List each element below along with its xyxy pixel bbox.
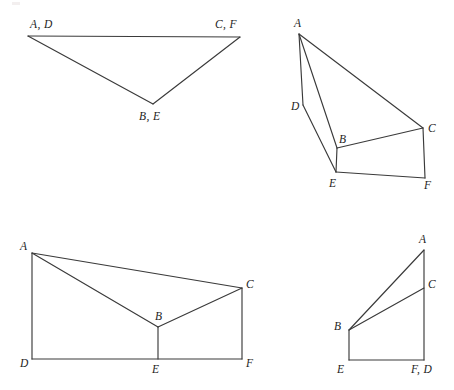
- edge-A-B: [299, 34, 337, 148]
- vertex-label-F: F: [245, 357, 254, 369]
- vertex-label-BE: B, E: [139, 110, 160, 123]
- vertex-label-CF: C, F: [215, 18, 238, 31]
- vertex-label-E: E: [328, 177, 336, 189]
- figure-bottom-left: A C B D E F: [19, 240, 254, 375]
- edge-C-F: [423, 128, 425, 178]
- vertex-label-C: C: [428, 278, 436, 290]
- edge-AD-BE: [28, 36, 153, 104]
- vertex-label-A: A: [293, 17, 302, 29]
- figure-top-left-labels: A, D C, F B, E: [29, 18, 238, 123]
- edge-E-F: [336, 172, 425, 178]
- figure-bottom-right: A C B E F, D: [334, 233, 436, 376]
- figure-top-left-edges: [28, 36, 240, 104]
- figure-top-right-edges: [299, 34, 425, 178]
- edge-D-E: [303, 105, 336, 172]
- edge-A-C: [299, 34, 423, 128]
- figure-bottom-left-edges: [32, 253, 242, 359]
- vertex-label-FD: F, D: [410, 363, 432, 376]
- edge-BE-CF: [153, 37, 240, 104]
- figure-top-left: A, D C, F B, E: [28, 18, 240, 123]
- edge-B-C: [337, 128, 423, 148]
- vertex-label-F: F: [423, 179, 432, 191]
- vertex-label-E: E: [336, 363, 344, 375]
- geometry-figure-canvas: A, D C, F B, E A D B E C F: [0, 0, 454, 390]
- edge-B-C: [349, 288, 424, 330]
- vertex-label-B: B: [339, 133, 346, 145]
- vertex-label-D: D: [19, 357, 29, 369]
- vertex-label-A: A: [418, 233, 427, 245]
- vertex-label-E: E: [151, 363, 159, 375]
- figure-top-right: A D B E C F: [290, 17, 436, 191]
- vertex-label-C: C: [246, 278, 254, 290]
- vertex-label-B: B: [334, 320, 341, 332]
- vertex-label-B: B: [155, 310, 162, 322]
- vertex-label-C: C: [428, 122, 436, 134]
- edge-B-C: [158, 288, 242, 327]
- figure-bottom-left-labels: A C B D E F: [19, 240, 254, 375]
- edge-A-B: [349, 250, 424, 330]
- vertex-label-A: A: [19, 240, 28, 252]
- vertex-label-D: D: [290, 100, 300, 112]
- edge-B-E: [336, 148, 337, 172]
- vertex-label-AD: A, D: [29, 18, 53, 31]
- edge-A-B: [32, 253, 158, 327]
- edge-AD-CF: [28, 36, 240, 37]
- edge-A-C: [32, 253, 242, 288]
- figure-page: { "page": { "title": "Congruent triangle…: [0, 0, 454, 390]
- figure-bottom-right-edges: [349, 250, 424, 360]
